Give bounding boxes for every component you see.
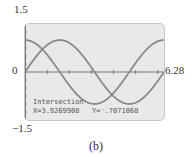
- figure-caption: (b): [0, 140, 192, 152]
- intersection-y: Y=⁻.7071068: [92, 107, 138, 115]
- y-min-label: −1.5: [12, 123, 32, 134]
- calculator-screen: Intersection X=3.9269908 Y=⁻.7071068: [24, 23, 165, 121]
- intersection-coords: X=3.9269908 Y=⁻.7071068: [33, 108, 138, 115]
- y-max-label: 1.5: [14, 4, 28, 15]
- x-max-label: 6.28: [165, 65, 184, 76]
- intersection-label: Intersection: [33, 99, 84, 106]
- x-min-label: 0: [12, 65, 18, 76]
- intersection-x: X=3.9269908: [33, 107, 79, 115]
